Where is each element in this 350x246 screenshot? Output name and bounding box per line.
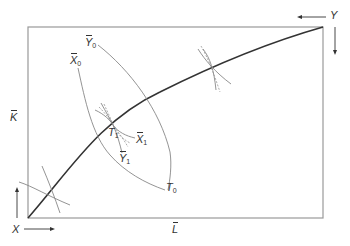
label-t0: T0 <box>166 182 177 194</box>
label-x0: X0 <box>70 55 81 67</box>
label-y0: Y0 <box>85 37 96 49</box>
origin-label-y: Y <box>330 10 337 21</box>
arrowhead-up-icon <box>15 187 19 192</box>
isoquant-x-lower <box>19 182 70 205</box>
arrowhead-down-icon <box>333 50 337 55</box>
isoquant-x0 <box>78 68 165 190</box>
diagram-canvas <box>0 0 350 246</box>
axis-label-capital: K <box>10 112 17 123</box>
label-x1: X1 <box>136 134 147 146</box>
arrowhead-left-icon <box>297 15 302 19</box>
edgeworth-box-diagram: Y X K L Y0 X0 T1 X1 Y1 T0 <box>0 0 350 246</box>
axis-label-labor: L <box>172 224 178 235</box>
label-y1: Y1 <box>119 153 130 165</box>
arrowhead-right-icon <box>50 227 55 231</box>
origin-label-x: X <box>12 224 19 235</box>
label-t1: T1 <box>108 127 119 139</box>
